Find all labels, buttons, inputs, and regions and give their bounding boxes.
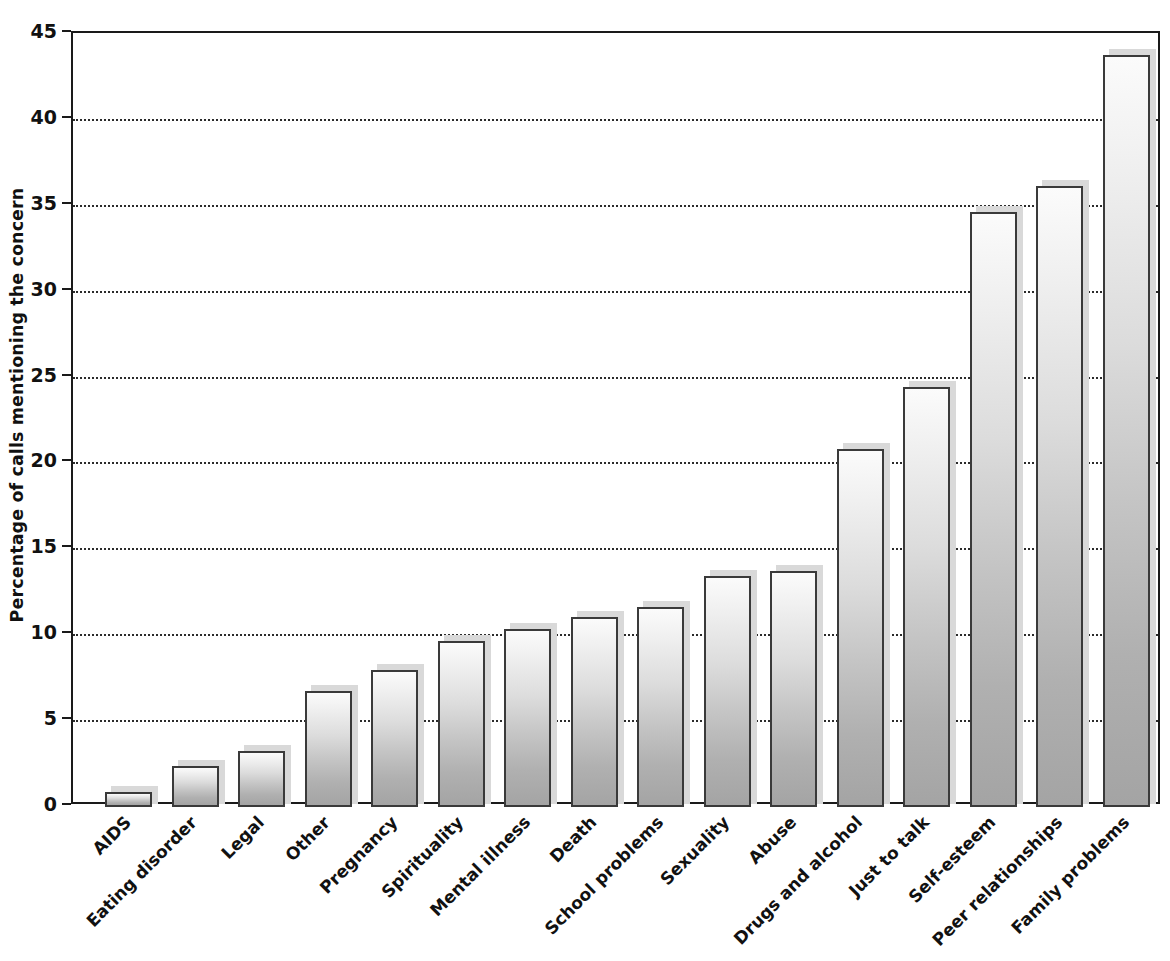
x-tick-label: Death <box>546 812 601 867</box>
bar[interactable] <box>903 387 950 807</box>
bar[interactable] <box>637 607 684 807</box>
y-tick-mark <box>62 717 71 719</box>
bar[interactable] <box>1036 186 1083 807</box>
gridline <box>73 119 1158 121</box>
y-tick-mark <box>62 631 71 633</box>
bar[interactable] <box>438 641 485 807</box>
y-tick-mark <box>62 374 71 376</box>
x-tick-label: Sexuality <box>656 812 733 889</box>
y-tick-label: 0 <box>11 793 57 815</box>
bar[interactable] <box>571 617 618 807</box>
y-tick-label: 20 <box>11 449 57 471</box>
y-tick-label: 15 <box>11 535 57 557</box>
x-tick-label: School problems <box>540 812 667 939</box>
y-tick-mark <box>62 30 71 32</box>
y-tick-label: 35 <box>11 192 57 214</box>
x-tick-label: Legal <box>217 812 268 863</box>
bar[interactable] <box>238 751 285 807</box>
y-tick-label: 45 <box>11 20 57 42</box>
bar[interactable] <box>970 212 1017 807</box>
plot-area <box>71 31 1160 804</box>
y-tick-label: 40 <box>11 106 57 128</box>
bar[interactable] <box>1103 55 1150 807</box>
x-tick-label: Drugs and alcohol <box>730 812 867 949</box>
y-tick-mark <box>62 202 71 204</box>
bar[interactable] <box>371 670 418 807</box>
x-tick-label: AIDS <box>88 812 135 859</box>
y-tick-label: 5 <box>11 707 57 729</box>
y-tick-mark <box>62 288 71 290</box>
y-tick-mark <box>62 459 71 461</box>
bar[interactable] <box>837 449 884 807</box>
x-tick-label: Eating disorder <box>82 812 200 930</box>
y-tick-label: 10 <box>11 621 57 643</box>
x-tick-label: Family problems <box>1007 812 1133 938</box>
bar-chart: Percentage of calls mentioning the conce… <box>0 0 1170 961</box>
bar[interactable] <box>305 691 352 807</box>
bar[interactable] <box>172 766 219 807</box>
bar[interactable] <box>704 576 751 807</box>
x-tick-label: Peer relationships <box>928 812 1066 950</box>
y-tick-mark <box>62 545 71 547</box>
x-tick-label: Other <box>281 812 334 865</box>
x-tick-label: Abuse <box>744 812 800 868</box>
bar[interactable] <box>105 792 152 807</box>
bar[interactable] <box>504 629 551 807</box>
y-tick-mark <box>62 116 71 118</box>
y-tick-label: 25 <box>11 364 57 386</box>
y-tick-label: 30 <box>11 278 57 300</box>
y-tick-mark <box>62 803 71 805</box>
bar[interactable] <box>770 571 817 807</box>
